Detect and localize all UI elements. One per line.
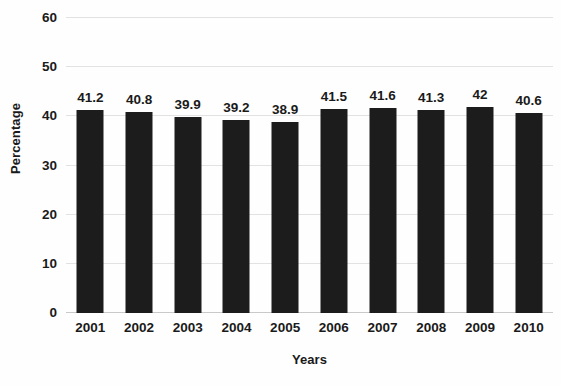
bar-group: 41.52006 [310,18,359,313]
bar-chart: Percentage 0102030405060 41.2200140.8200… [0,0,561,386]
bar[interactable] [515,113,542,313]
x-axis-title: Years [66,352,553,367]
bar-value-label: 39.9 [175,97,201,112]
bar-group: 41.62007 [358,18,407,313]
bar[interactable] [418,110,445,313]
bar-value-label: 40.6 [516,93,542,108]
bar[interactable] [223,120,250,313]
x-tick-label-2003: 2003 [173,320,203,335]
y-tick-label-60: 60 [42,10,57,25]
x-tick-label-2005: 2005 [270,320,300,335]
y-tick-label-50: 50 [42,59,57,74]
bar-value-label: 38.9 [272,102,298,117]
y-tick-label-30: 30 [42,157,57,172]
bar-value-label: 41.6 [369,88,395,103]
bar[interactable] [77,110,104,313]
x-tick-label-2001: 2001 [75,320,105,335]
bar-group: 38.92005 [261,18,310,313]
bar[interactable] [272,122,299,313]
bar-group: 40.62010 [504,18,553,313]
y-tick-label-10: 10 [42,255,57,270]
bar[interactable] [466,107,493,314]
bar-value-label: 41.5 [321,89,347,104]
bar-value-label: 42 [472,87,487,102]
y-tick-label-0: 0 [49,305,57,320]
x-tick-label-2008: 2008 [416,320,446,335]
x-tick-label-2010: 2010 [514,320,544,335]
bar-value-label: 41.2 [77,90,103,105]
bar-value-label: 41.3 [418,90,444,105]
y-axis-title: Percentage [8,79,23,199]
bar[interactable] [126,112,153,313]
bar-group: 41.22001 [66,18,115,313]
bars-container: 41.2200140.8200239.9200339.2200438.92005… [66,18,553,313]
bar[interactable] [174,117,201,313]
plot-area: 0102030405060 41.2200140.8200239.9200339… [66,18,553,313]
bar-group: 39.22004 [212,18,261,313]
x-tick-label-2006: 2006 [319,320,349,335]
bar-value-label: 40.8 [126,92,152,107]
bar[interactable] [369,108,396,313]
x-tick-label-2007: 2007 [368,320,398,335]
x-tick-label-2004: 2004 [221,320,251,335]
y-tick-label-20: 20 [42,206,57,221]
bar-group: 40.82002 [115,18,164,313]
x-tick-label-2002: 2002 [124,320,154,335]
bar[interactable] [320,109,347,313]
bar-group: 422009 [456,18,505,313]
bar-group: 39.92003 [163,18,212,313]
y-tick-label-40: 40 [42,108,57,123]
bar-value-label: 39.2 [223,100,249,115]
bar-group: 41.32008 [407,18,456,313]
x-tick-label-2009: 2009 [465,320,495,335]
